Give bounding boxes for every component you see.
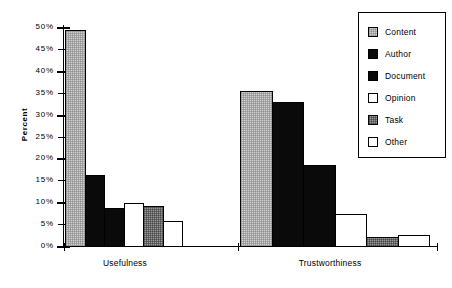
x-axis-label-trustworthiness: Trustworthiness <box>270 258 390 268</box>
legend-item[interactable]: Content <box>368 21 445 43</box>
legend-item[interactable]: Author <box>368 43 445 65</box>
legend-label: Other <box>385 137 407 147</box>
bar-usefulness-other[interactable] <box>163 221 184 247</box>
bar-group-usefulness <box>65 27 182 247</box>
y-tick-label: 30% <box>8 110 54 119</box>
bar-usefulness-author[interactable] <box>85 175 106 247</box>
y-tick-label: 50% <box>8 22 54 31</box>
bar-trustworthiness-opinion[interactable] <box>335 214 368 247</box>
x-tick <box>64 243 65 251</box>
y-tick-label: 0% <box>8 241 54 250</box>
bar-trustworthiness-author[interactable] <box>272 102 305 247</box>
y-tick-label: 25% <box>8 132 54 141</box>
y-tick-label: 5% <box>8 219 54 228</box>
legend-item[interactable]: Other <box>368 131 445 153</box>
y-tick-label: 35% <box>8 88 54 97</box>
legend: Content Author Document Opinion Task Oth… <box>358 12 446 158</box>
bar-trustworthiness-document[interactable] <box>303 165 336 247</box>
legend-swatch-content-icon <box>368 27 378 37</box>
bar-usefulness-document[interactable] <box>104 208 125 247</box>
y-tick-label: 45% <box>8 44 54 53</box>
bar-usefulness-content[interactable] <box>65 30 86 247</box>
bar-chart: Percent 0%5%10%15%20%25%30%35%40%45%50% … <box>0 0 452 288</box>
x-tick <box>437 243 438 251</box>
x-tick <box>238 243 239 251</box>
y-tick-label: 40% <box>8 66 54 75</box>
legend-item[interactable]: Opinion <box>368 87 445 109</box>
legend-label: Document <box>385 71 425 81</box>
x-axis-label-usefulness: Usefulness <box>65 258 185 268</box>
legend-swatch-author-icon <box>368 49 378 59</box>
y-axis-title: Percent <box>20 95 29 155</box>
x-axis-line <box>63 246 438 247</box>
legend-label: Opinion <box>385 93 416 103</box>
legend-swatch-document-icon <box>368 71 378 81</box>
bar-usefulness-opinion[interactable] <box>124 203 145 247</box>
legend-item[interactable]: Task <box>368 109 445 131</box>
legend-label: Author <box>385 49 411 59</box>
legend-swatch-opinion-icon <box>368 93 378 103</box>
legend-swatch-task-icon <box>368 115 378 125</box>
legend-swatch-other-icon <box>368 137 378 147</box>
bar-trustworthiness-content[interactable] <box>240 91 273 247</box>
bar-usefulness-task[interactable] <box>143 206 164 247</box>
y-tick-label: 15% <box>8 175 54 184</box>
legend-label: Content <box>385 27 416 37</box>
y-tick-label: 20% <box>8 153 54 162</box>
legend-label: Task <box>385 115 403 125</box>
y-tick-label: 10% <box>8 197 54 206</box>
legend-item[interactable]: Document <box>368 65 445 87</box>
